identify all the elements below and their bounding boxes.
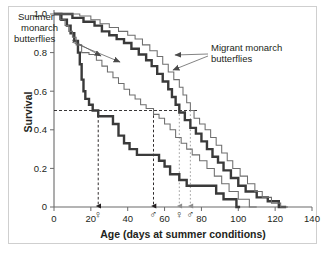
migrant-leader-2 xyxy=(173,56,208,70)
survival-chart: 00.20.40.60.81.0 020406080100120140 ♀♂♀♂… xyxy=(0,0,325,257)
figure-container: 00.20.40.60.81.0 020406080100120140 ♀♂♀♂… xyxy=(0,0,325,257)
y-tick-label: 0.8 xyxy=(34,47,47,58)
y-tick-label: 0.4 xyxy=(34,124,47,135)
median-symbol-group: ♀♂♀♂ xyxy=(94,208,194,220)
migrant-female-median-symbol: ♀ xyxy=(175,208,183,220)
summer-label-line-1: Summer xyxy=(18,11,54,22)
y-tick-label: 0.6 xyxy=(34,86,47,97)
y-tick-label: 0 xyxy=(42,201,47,212)
x-tick-label: 140 xyxy=(304,213,320,224)
x-tick-label: 60 xyxy=(159,213,170,224)
x-tick-label: 40 xyxy=(122,213,133,224)
y-tick-label: 0.2 xyxy=(34,163,47,174)
migrant-leader-lines xyxy=(173,54,208,70)
x-tick-label: 0 xyxy=(51,213,56,224)
summer-female-median-symbol: ♀ xyxy=(94,208,102,220)
migrant-label-line-2: butterflies xyxy=(211,53,252,64)
y-axis-title: Survival xyxy=(22,91,34,132)
migrant-male-median-symbol: ♂ xyxy=(186,208,194,220)
migrant-leader-1 xyxy=(175,54,208,55)
summer-label-line-3: butterflies xyxy=(14,33,55,44)
x-tick-label: 120 xyxy=(267,213,283,224)
summer-label-line-2: monarch xyxy=(21,22,58,33)
x-axis-title: Age (days at summer conditions) xyxy=(100,228,266,240)
x-tick-label: 80 xyxy=(196,213,207,224)
plot-area: 00.20.40.60.81.0 020406080100120140 ♀♂♀♂ xyxy=(34,8,320,224)
summer-male-median-symbol: ♂ xyxy=(150,208,158,220)
migrant-label-line-1: Migrant monarch xyxy=(211,42,282,53)
x-tick-label: 100 xyxy=(230,213,246,224)
